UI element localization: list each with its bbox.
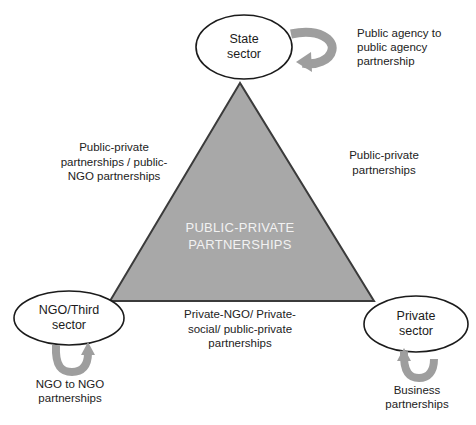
node-label-private-sector: Private sector — [364, 309, 468, 339]
edge-label-ngo-to-private: Private-NGO/ Private- social/ public-pri… — [150, 307, 330, 351]
diagram-canvas: PUBLIC-PRIVATE PARTNERSHIPS State sector… — [0, 0, 476, 425]
triangle-center-label: PUBLIC-PRIVATE PARTNERSHIPS — [150, 219, 330, 253]
node-label-ngo-third-sector: NGO/Third sector — [14, 303, 124, 333]
node-label-state-sector: State sector — [196, 32, 292, 62]
loop-label-private-self: Business partnerships — [358, 383, 476, 411]
edge-label-state-to-private: Public-private partnerships — [318, 148, 450, 177]
ngo-self-loop-arrow-icon — [56, 342, 95, 372]
partnership-triangle — [110, 83, 374, 301]
loop-label-state-self: Public agency to public agency partnersh… — [357, 26, 475, 68]
state-self-loop-arrow-icon — [291, 32, 332, 72]
edge-label-state-to-ngo: Public-private partnerships / public- NG… — [34, 140, 194, 184]
loop-label-ngo-self: NGO to NGO partnerships — [8, 377, 132, 405]
